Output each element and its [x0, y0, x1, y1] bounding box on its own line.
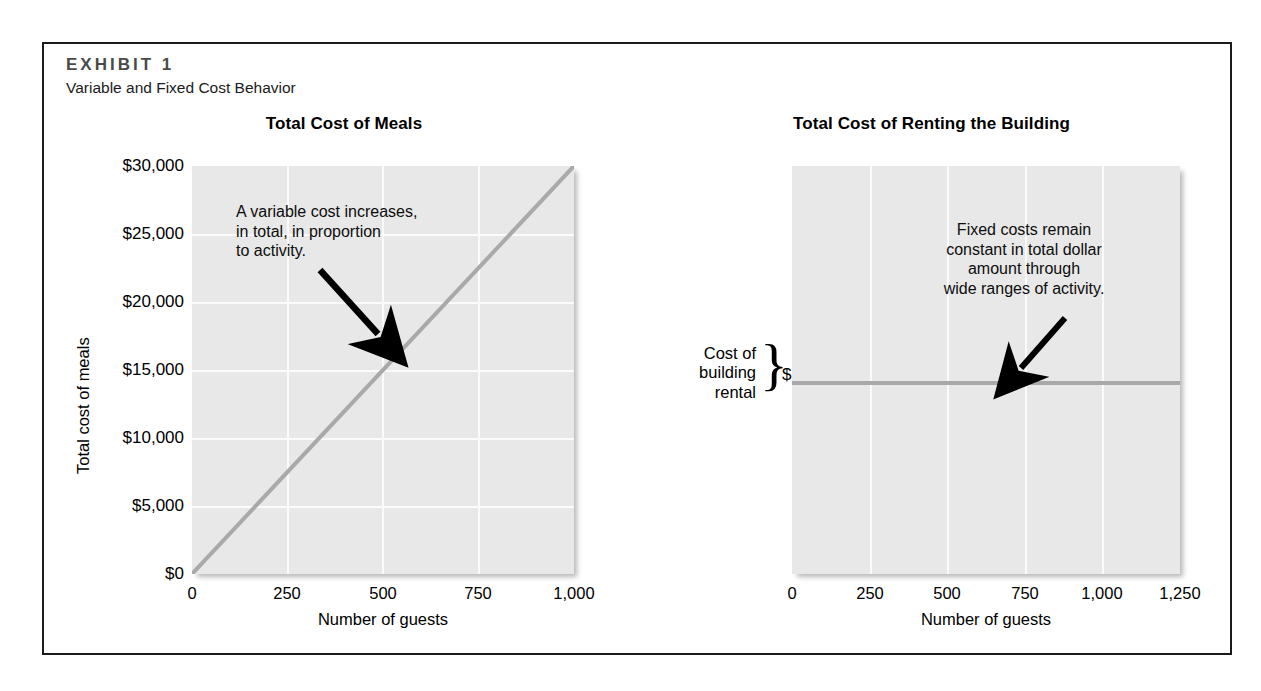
bracket-label-building-rental: Cost of building rental	[644, 344, 756, 402]
x-tick-label: 1,250	[1159, 584, 1200, 603]
chart-total-cost-of-meals: Total Cost of Meals Total cost of meals …	[44, 44, 644, 657]
y-tick-label: $5,000	[74, 496, 184, 516]
y-axis-title-meals: Total cost of meals	[74, 337, 93, 474]
chart-title-meals: Total Cost of Meals	[44, 114, 644, 134]
x-axis-title-meals: Number of guests	[318, 610, 448, 629]
x-tick-label: 500	[369, 584, 397, 603]
y-tick-label: $10,000	[74, 428, 184, 448]
exhibit-box: EXHIBIT 1 Variable and Fixed Cost Behavi…	[42, 42, 1232, 655]
chart-total-cost-of-renting: Total Cost of Renting the Building Cost …	[644, 44, 1234, 657]
x-tick-label: 250	[273, 584, 301, 603]
x-tick-label: 750	[464, 584, 492, 603]
chart-title-rent: Total Cost of Renting the Building	[644, 114, 1219, 134]
x-tick-label: 1,000	[553, 584, 594, 603]
x-tick-label: 0	[787, 584, 796, 603]
annotation-arrow-icon	[1007, 306, 1127, 426]
y-tick-label: $30,000	[74, 156, 184, 176]
y-tick-label: $20,000	[74, 292, 184, 312]
annotation-fixed-cost: Fixed costs remain constant in total dol…	[874, 220, 1174, 298]
x-tick-label: 0	[187, 584, 196, 603]
x-tick-label: 250	[856, 584, 884, 603]
y-tick-label: $25,000	[74, 224, 184, 244]
gridline-vertical	[870, 166, 872, 574]
x-tick-label: 500	[933, 584, 961, 603]
x-tick-label: 1,000	[1081, 584, 1122, 603]
x-axis-title-rent: Number of guests	[921, 610, 1051, 629]
annotation-arrow-icon	[312, 262, 472, 392]
plot-area-rent: Fixed costs remain constant in total dol…	[792, 166, 1180, 574]
y-tick-label: $15,000	[74, 360, 184, 380]
annotation-variable-cost: A variable cost increases, in total, in …	[236, 202, 417, 261]
y-tick-label: $0	[74, 564, 184, 584]
plot-area-meals: A variable cost increases, in total, in …	[192, 166, 574, 574]
x-tick-label: 750	[1011, 584, 1039, 603]
